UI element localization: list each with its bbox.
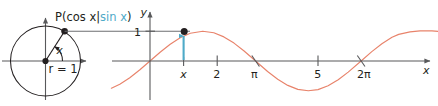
radius-label: r = 1 <box>49 62 78 76</box>
point-p-label-sin: sin x <box>100 10 127 24</box>
y-tick-one-label: 1 <box>134 26 141 39</box>
y-axis-label: y <box>140 6 148 19</box>
x-tick-label-pi: π <box>251 68 258 81</box>
x-tick-label-2pi: 2π <box>357 68 371 81</box>
x-axis-label: x <box>422 64 430 77</box>
point-on-curve-dot <box>181 28 188 35</box>
x-tick-label-x: x <box>179 68 187 81</box>
sine-graph-panel: 1 y x x 2 π 5 2π <box>111 6 438 100</box>
angle-label: x <box>56 44 64 56</box>
point-p-label-cos: P(cos x <box>55 10 96 24</box>
point-p-label: P(cos x|sin x) <box>55 10 132 24</box>
x-tick-label-2: 2 <box>213 68 220 81</box>
x-tick-label-5: 5 <box>314 68 321 81</box>
point-p-label-close: ) <box>127 10 132 24</box>
figure-canvas: x r = 1 P(cos x|sin x) 1 y x <box>0 0 438 106</box>
sine-unit-circle-figure: x r = 1 P(cos x|sin x) 1 y x <box>0 0 438 106</box>
unit-circle-panel: x r = 1 P(cos x|sin x) <box>2 10 132 100</box>
